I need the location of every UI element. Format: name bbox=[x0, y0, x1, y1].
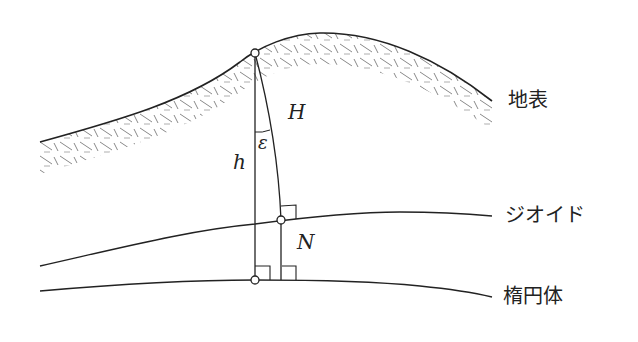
ellipsoid-line bbox=[40, 280, 492, 297]
ground-hatching bbox=[30, 25, 500, 185]
ellipsoid-point bbox=[251, 276, 259, 284]
right-angle-marker-ellipsoid-n bbox=[282, 266, 296, 280]
orthometric-height-symbol: H bbox=[288, 102, 305, 122]
ellipsoidal-height-symbol: h bbox=[233, 152, 246, 172]
geoid-point bbox=[277, 216, 285, 224]
geoid-label: ジオイド bbox=[505, 205, 585, 225]
ground-point bbox=[251, 49, 259, 57]
ground-surface-label: 地表 bbox=[508, 90, 548, 110]
geoid-line bbox=[40, 212, 492, 266]
geoid-height-symbol: N bbox=[297, 232, 315, 252]
deflection-symbol: ε bbox=[258, 134, 268, 152]
ellipsoid-label: 楕円体 bbox=[503, 286, 563, 306]
